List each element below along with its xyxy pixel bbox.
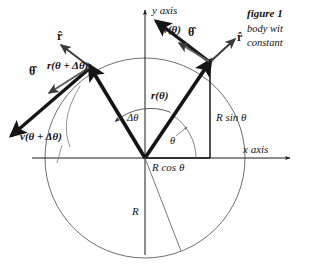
caption-line-1: body wit <box>247 22 283 35</box>
unit-vector-theta-hat-right <box>179 43 210 62</box>
leader-line-v-theta-delta <box>66 86 80 147</box>
label-r-theta: r(θ) <box>151 90 168 101</box>
leader-line-v-theta-delta-lower <box>57 145 62 163</box>
angle-arc-theta <box>173 116 196 159</box>
point-marker-r-theta-delta <box>89 66 92 69</box>
y-axis-label: y axis <box>152 5 177 16</box>
label-r-sin-theta: R sin θ <box>216 112 246 123</box>
label-radius-R: R <box>132 206 139 217</box>
label-theta-hat-left: θ̂ <box>29 65 35 77</box>
label-r-hat-right: r̂ <box>237 31 242 43</box>
label-r-theta-delta-theta: r(θ + Δθ) <box>47 60 88 71</box>
label-theta-hat-right: θ̂ <box>188 26 194 38</box>
label-v-theta-delta-theta: v(θ + Δθ) <box>20 131 62 142</box>
leader-line-theta <box>176 127 187 136</box>
caption-title: figure 1 <box>247 7 283 21</box>
label-r-cos-theta: R cos θ <box>152 162 184 173</box>
unit-vector-r-hat-right <box>210 39 235 62</box>
caption-line-2: constant <box>247 36 283 49</box>
label-r-hat-left: r̂ <box>57 30 62 42</box>
label-theta: θ <box>170 136 175 147</box>
point-marker-r-theta <box>209 61 212 64</box>
label-delta-theta: Δθ <box>127 113 138 124</box>
x-axis-label: x axis <box>243 144 268 155</box>
label-v-theta: v(θ) <box>163 24 181 35</box>
